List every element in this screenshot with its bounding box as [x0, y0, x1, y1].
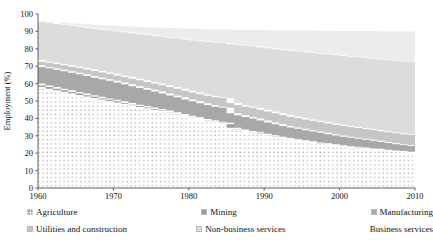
- stacked-areas: [38, 21, 415, 188]
- y-tick-label: 80: [25, 44, 34, 54]
- y-tick-label: 90: [25, 26, 34, 36]
- legend-item-utilities-construction[interactable]: Utilities and construction: [27, 220, 196, 237]
- legend-item-agriculture[interactable]: Agriculture: [27, 203, 201, 220]
- legend-label-business-services: Business services: [370, 224, 433, 234]
- business-services-swatch-icon: [361, 226, 367, 232]
- y-tick-label: 60: [25, 79, 34, 89]
- y-tick-label: 20: [25, 148, 34, 158]
- legend-item-manufacturing[interactable]: Manufacturing: [371, 203, 433, 220]
- x-tick-label: 1980: [180, 191, 197, 201]
- x-tick-label: 2010: [407, 191, 424, 201]
- legend-label-mining: Mining: [210, 207, 237, 217]
- legend-item-mining[interactable]: Mining: [201, 203, 370, 220]
- legend-label-non-business-services: Non-business services: [205, 224, 285, 234]
- x-tick-label: 1970: [105, 191, 122, 201]
- agriculture-swatch-icon: [27, 209, 33, 215]
- legend-label-agriculture: Agriculture: [36, 207, 77, 217]
- legend-item-non-business-services[interactable]: Non-business services: [196, 220, 361, 237]
- y-tick-label: 10: [25, 166, 34, 176]
- mining-swatch-icon: [201, 209, 207, 215]
- y-tick-label: 50: [25, 96, 34, 106]
- legend-label-utilities-construction: Utilities and construction: [36, 224, 127, 234]
- utilities-construction-swatch-icon: [27, 226, 33, 232]
- y-tick-label: 70: [25, 61, 34, 71]
- non-business-services-swatch-icon: [196, 226, 202, 232]
- legend-row-top: Agriculture Mining Manufacturing: [0, 203, 433, 220]
- x-tick-label: 2000: [331, 191, 348, 201]
- y-tick-label: 100: [20, 9, 33, 19]
- legend-row-bottom: Utilities and construction Non-business …: [0, 220, 433, 237]
- x-tick-label: 1960: [30, 191, 47, 201]
- manufacturing-swatch-icon: [371, 209, 377, 215]
- legend-item-business-services[interactable]: Business services: [361, 220, 433, 237]
- legend-label-manufacturing: Manufacturing: [380, 207, 433, 217]
- y-tick-label: 30: [25, 131, 34, 141]
- x-tick-label: 1990: [256, 191, 273, 201]
- y-tick-label: 40: [25, 113, 34, 123]
- y-axis-title: Employment (%): [2, 71, 12, 130]
